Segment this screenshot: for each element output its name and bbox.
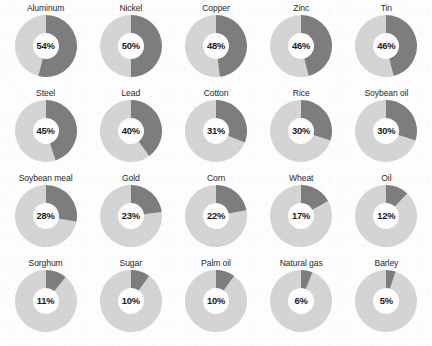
donut-label: Oil bbox=[381, 174, 391, 183]
donut-ring: 50% bbox=[100, 15, 162, 77]
donut-svg bbox=[100, 185, 162, 247]
donut-label: Lead bbox=[121, 89, 140, 98]
donut-chart-corn: Corn22% bbox=[173, 174, 258, 259]
donut-ring: 10% bbox=[100, 270, 162, 332]
donut-label: Nickel bbox=[119, 4, 142, 13]
donut-chart-cotton: Cotton31% bbox=[173, 89, 258, 174]
donut-label: Sorghum bbox=[29, 259, 63, 268]
donut-svg bbox=[185, 15, 247, 77]
donut-chart-rice: Rice30% bbox=[259, 89, 344, 174]
donut-label: Natural gas bbox=[280, 259, 323, 268]
donut-slice-share bbox=[131, 15, 162, 77]
donut-slice-share bbox=[216, 185, 246, 214]
donut-ring: 46% bbox=[355, 15, 417, 77]
donut-label: Zinc bbox=[293, 4, 309, 13]
donut-ring: 31% bbox=[185, 100, 247, 162]
donut-chart-natural-gas: Natural gas6% bbox=[259, 259, 344, 344]
donut-slice-share bbox=[131, 185, 162, 214]
donut-svg bbox=[270, 100, 332, 162]
donut-label: Tin bbox=[381, 4, 392, 13]
donut-svg bbox=[185, 100, 247, 162]
donut-chart-grid: Aluminum54%Nickel50%Copper48%Zinc46%Tin4… bbox=[0, 0, 432, 346]
donut-chart-palm-oil: Palm oil10% bbox=[173, 259, 258, 344]
donut-svg bbox=[355, 15, 417, 77]
donut-svg bbox=[270, 185, 332, 247]
donut-slice-share bbox=[216, 100, 247, 142]
donut-label: Wheat bbox=[289, 174, 313, 183]
donut-svg bbox=[100, 270, 162, 332]
donut-label: Soybean meal bbox=[19, 174, 73, 183]
donut-svg bbox=[15, 100, 77, 162]
donut-svg bbox=[355, 100, 417, 162]
donut-label: Gold bbox=[122, 174, 140, 183]
donut-chart-soybean-oil: Soybean oil30% bbox=[344, 89, 429, 174]
donut-chart-gold: Gold23% bbox=[88, 174, 173, 259]
donut-svg bbox=[355, 185, 417, 247]
donut-ring: 12% bbox=[355, 185, 417, 247]
donut-chart-nickel: Nickel50% bbox=[88, 4, 173, 89]
donut-label: Barley bbox=[375, 259, 399, 268]
donut-label: Aluminum bbox=[27, 4, 64, 13]
donut-ring: 28% bbox=[15, 185, 77, 247]
donut-ring: 30% bbox=[270, 100, 332, 162]
donut-chart-wheat: Wheat17% bbox=[259, 174, 344, 259]
donut-chart-steel: Steel45% bbox=[3, 89, 88, 174]
donut-svg bbox=[15, 185, 77, 247]
donut-ring: 45% bbox=[15, 100, 77, 162]
donut-chart-aluminum: Aluminum54% bbox=[3, 4, 88, 89]
donut-chart-oil: Oil12% bbox=[344, 174, 429, 259]
donut-chart-barley: Barley5% bbox=[344, 259, 429, 344]
donut-label: Corn bbox=[207, 174, 225, 183]
donut-chart-sugar: Sugar10% bbox=[88, 259, 173, 344]
donut-slice-share bbox=[46, 185, 77, 222]
donut-ring: 54% bbox=[15, 15, 77, 77]
donut-ring: 40% bbox=[100, 100, 162, 162]
donut-ring: 11% bbox=[15, 270, 77, 332]
donut-chart-copper: Copper48% bbox=[173, 4, 258, 89]
donut-chart-sorghum: Sorghum11% bbox=[3, 259, 88, 344]
donut-ring: 6% bbox=[270, 270, 332, 332]
donut-chart-soybean-meal: Soybean meal28% bbox=[3, 174, 88, 259]
donut-svg bbox=[355, 270, 417, 332]
donut-ring: 23% bbox=[100, 185, 162, 247]
donut-ring: 30% bbox=[355, 100, 417, 162]
donut-slice-share bbox=[301, 100, 332, 141]
donut-ring: 10% bbox=[185, 270, 247, 332]
donut-label: Sugar bbox=[120, 259, 142, 268]
donut-label: Copper bbox=[202, 4, 230, 13]
donut-svg bbox=[15, 15, 77, 77]
donut-label: Rice bbox=[293, 89, 310, 98]
donut-ring: 48% bbox=[185, 15, 247, 77]
donut-slice-remainder bbox=[185, 15, 220, 77]
donut-svg bbox=[185, 185, 247, 247]
donut-ring: 17% bbox=[270, 185, 332, 247]
donut-svg bbox=[100, 100, 162, 162]
donut-slice-remainder bbox=[100, 15, 131, 77]
donut-slice-share bbox=[386, 100, 417, 141]
donut-slice-share bbox=[216, 15, 247, 77]
donut-svg bbox=[15, 270, 77, 332]
donut-svg bbox=[270, 270, 332, 332]
donut-svg bbox=[185, 270, 247, 332]
donut-chart-tin: Tin46% bbox=[344, 4, 429, 89]
donut-ring: 22% bbox=[185, 185, 247, 247]
donut-label: Steel bbox=[36, 89, 55, 98]
donut-chart-zinc: Zinc46% bbox=[259, 4, 344, 89]
donut-svg bbox=[270, 15, 332, 77]
donut-chart-lead: Lead40% bbox=[88, 89, 173, 174]
donut-ring: 46% bbox=[270, 15, 332, 77]
donut-ring: 5% bbox=[355, 270, 417, 332]
donut-label: Palm oil bbox=[201, 259, 231, 268]
donut-label: Soybean oil bbox=[364, 89, 408, 98]
donut-label: Cotton bbox=[204, 89, 229, 98]
donut-svg bbox=[100, 15, 162, 77]
